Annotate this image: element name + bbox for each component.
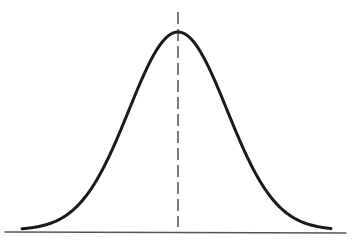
bell-curve: [22, 32, 331, 229]
normal-distribution-diagram: [0, 0, 354, 245]
x-axis-baseline: [5, 232, 346, 233]
